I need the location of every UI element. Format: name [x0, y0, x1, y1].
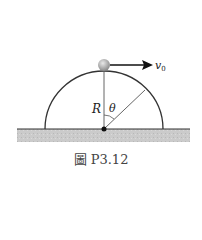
figure-caption: 圖 P3.12: [0, 149, 202, 168]
velocity-label: v0: [155, 59, 166, 73]
angle-arc: [104, 115, 114, 119]
center-point: [102, 127, 107, 132]
ball: [98, 59, 110, 71]
angle-label: θ: [109, 102, 116, 115]
radius-label: R: [91, 102, 101, 116]
